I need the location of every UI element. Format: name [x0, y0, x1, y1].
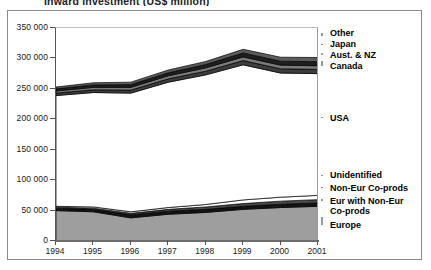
plot-area	[55, 27, 318, 240]
series-label-canada: Canada	[330, 61, 363, 71]
y-tick-label: 250 000	[0, 83, 48, 93]
x-tick-label: 2001	[295, 246, 339, 256]
y-tick-label: 300 000	[0, 52, 48, 62]
series-label-europe: Europe	[330, 220, 361, 230]
x-tick-mark	[317, 240, 318, 245]
series-label-other: Other	[330, 28, 354, 38]
series-label-unidentified: Unidentified	[330, 170, 382, 180]
series-label-non-eur-co-prods: Non-Eur Co-prods	[330, 183, 408, 193]
y-tick-label: 150 000	[0, 144, 48, 154]
chart-screenshot: Inward investment (US$ million) 050 0001…	[0, 0, 431, 270]
series-label-eur-with-non-eur-co-prods: Eur with Non-Eur Co-prods	[330, 196, 408, 216]
series-label-japan: Japan	[330, 39, 356, 49]
x-tick-mark	[280, 240, 281, 245]
x-tick-mark	[167, 240, 168, 245]
x-tick-mark	[92, 240, 93, 245]
stacked-area-series	[56, 28, 318, 240]
y-tick-label: 350 000	[0, 22, 48, 32]
y-tick-label: 100 000	[0, 174, 48, 184]
y-tick-label: 50 000	[0, 205, 48, 215]
y-tick-label: 0	[0, 235, 48, 245]
y-tick-label: 200 000	[0, 113, 48, 123]
series-label-aust-nz: Aust. & NZ	[330, 50, 376, 60]
x-tick-mark	[130, 240, 131, 245]
x-tick-mark	[55, 240, 56, 245]
x-tick-mark	[205, 240, 206, 245]
x-tick-mark	[242, 240, 243, 245]
series-label-usa: USA	[330, 113, 349, 123]
